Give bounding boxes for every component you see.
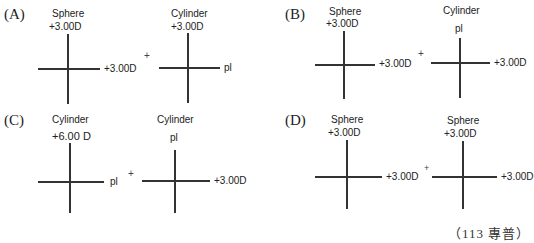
plus-sign-b: +	[418, 48, 424, 59]
option-a-right-horizontal: pl	[224, 62, 232, 73]
option-d-left-vertical: +3.00D	[328, 127, 361, 138]
option-a-right-horizontal-meridian	[159, 67, 220, 69]
option-d-right-type: Sphere	[447, 115, 479, 126]
option-d-right-vertical-meridian	[462, 141, 464, 209]
option-c-left-vertical: +6.00 D	[52, 130, 91, 142]
option-c-left-vertical-meridian	[69, 143, 71, 213]
option-a-left-horizontal: +3.00D	[104, 63, 137, 74]
option-d-left-horizontal: +3.00D	[386, 171, 419, 182]
option-a-right-type: Cylinder	[171, 8, 208, 19]
option-c-left-horizontal: pl	[110, 176, 118, 187]
option-b-right-horizontal-meridian	[431, 62, 490, 64]
plus-sign-a: +	[144, 50, 150, 61]
option-c-left-type: Cylinder	[52, 114, 89, 125]
option-c-right-type: Cylinder	[157, 114, 194, 125]
option-b-left-type: Sphere	[329, 6, 361, 17]
option-d-label: (D)	[285, 112, 306, 129]
option-c-label: (C)	[4, 112, 24, 129]
plus-sign-d: +	[424, 163, 429, 173]
option-c-right-vertical-meridian	[174, 150, 176, 213]
source-caption: （113 專普）	[448, 223, 530, 242]
option-d-right-horizontal: +3.00D	[501, 171, 534, 182]
option-b-left-horizontal-meridian	[315, 64, 375, 66]
option-d-left-vertical-meridian	[346, 140, 348, 209]
option-b-left-vertical: +3.00D	[326, 18, 359, 29]
option-d-left-type: Sphere	[331, 114, 363, 125]
option-b-label: (B)	[285, 6, 305, 23]
option-d-right-horizontal-meridian	[432, 176, 497, 178]
option-c-right-horizontal-meridian	[142, 180, 210, 182]
option-b-right-vertical-meridian	[459, 38, 461, 98]
option-d-left-horizontal-meridian	[315, 176, 382, 178]
option-a-left-type: Sphere	[52, 8, 84, 19]
option-b-right-horizontal: +3.00D	[494, 57, 527, 68]
option-c-right-horizontal: +3.00D	[214, 175, 247, 186]
option-a-label: (A)	[4, 6, 25, 23]
option-b-right-type: Cylinder	[443, 5, 480, 16]
option-a-left-vertical: +3.00D	[49, 21, 82, 32]
option-a-left-horizontal-meridian	[38, 68, 100, 70]
option-b-left-horizontal: +3.00D	[379, 58, 412, 69]
option-d-right-vertical: +3.00D	[444, 128, 477, 139]
option-a-right-vertical: +3.00D	[171, 21, 204, 32]
option-c-right-vertical: pl	[170, 132, 178, 143]
option-b-right-vertical: pl	[455, 23, 463, 34]
option-c-left-horizontal-meridian	[38, 181, 104, 183]
plus-sign-c: +	[128, 168, 134, 179]
